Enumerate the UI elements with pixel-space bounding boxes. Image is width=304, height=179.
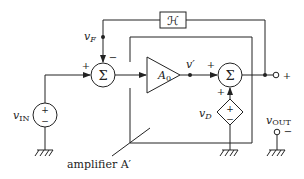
output-terminal-plus [273, 72, 279, 78]
sum1-label: Σ [98, 68, 107, 83]
ground-icon-vd [220, 150, 238, 156]
circuit-diagram: ℋ Σ Σ + − + + A0 v′ vF vIN + − vD + − + … [0, 0, 304, 179]
vin-plus: + [41, 105, 49, 115]
sum2-label: Σ [225, 68, 234, 83]
ground-icon-vout [267, 150, 285, 156]
output-minus-sign: − [284, 126, 292, 137]
output-plus-sign: + [283, 70, 291, 81]
ground-icon-vin [35, 150, 53, 156]
vprime-label: v′ [186, 58, 195, 71]
h-label: ℋ [167, 14, 179, 28]
amplifier-label-leader [112, 128, 150, 156]
vin-minus: − [41, 116, 49, 126]
vf-label: vF [84, 30, 96, 44]
vin-label: vIN [13, 109, 29, 123]
vprime-node-dot [188, 73, 192, 77]
output-node-dot [263, 73, 267, 77]
vd-minus: − [226, 114, 234, 124]
sum2-plus-left: + [207, 59, 215, 70]
output-terminal-minus [274, 129, 280, 135]
vd-label: vD [199, 107, 212, 121]
sum1-plus: + [82, 60, 90, 71]
vf-node-dot [101, 35, 105, 39]
vout-label: vOUT [266, 114, 292, 127]
sum1-minus: − [109, 52, 117, 63]
amplifier-label: amplifier A′ [67, 158, 132, 171]
vd-plus: + [226, 104, 234, 114]
sum2-plus-bottom: + [217, 86, 225, 97]
